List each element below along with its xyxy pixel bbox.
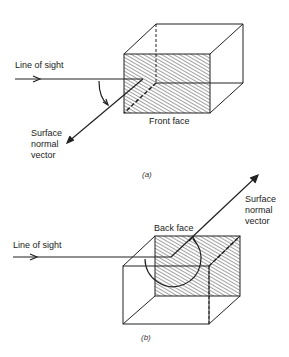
figure-a-box: [124, 24, 243, 113]
caption-b: (b): [141, 333, 151, 342]
normal-label-a-2: normal: [31, 139, 59, 149]
figure-b-box: [123, 236, 240, 324]
line-of-sight-label-a: Line of sight: [15, 60, 64, 70]
normal-label-a-3: vector: [31, 150, 56, 160]
line-of-sight-label-b: Line of sight: [13, 240, 62, 250]
back-face-label: Back face: [154, 223, 194, 233]
normal-label-b-2: normal: [245, 205, 273, 215]
caption-a: (a): [142, 170, 152, 179]
normal-label-b-3: vector: [245, 216, 270, 226]
normal-label-b-1: Surface: [245, 194, 276, 204]
front-face-label: Front face: [149, 116, 190, 126]
normal-label-a-1: Surface: [31, 128, 62, 138]
